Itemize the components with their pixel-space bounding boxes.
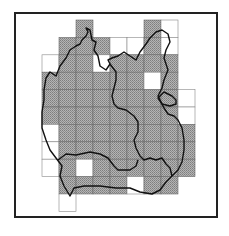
grid-cell-absent	[127, 177, 144, 194]
grid-cell-present	[144, 142, 161, 159]
grid-cell-present	[144, 124, 161, 141]
grid-cell-present	[93, 90, 110, 107]
grid-cell-present	[178, 142, 195, 159]
grid-cell-present	[110, 159, 127, 176]
grid-cell-present	[76, 107, 93, 124]
grid-cell-present	[93, 107, 110, 124]
grid-cell-present	[127, 124, 144, 141]
grid-cell-present	[76, 124, 93, 141]
grid-cell-present	[59, 37, 76, 54]
grid-cell-present	[127, 55, 144, 72]
grid-cell-present	[59, 124, 76, 141]
grid-cell-present	[76, 72, 93, 89]
grid-cell-present	[59, 72, 76, 89]
grid-cell-present	[93, 124, 110, 141]
grid-cell-absent	[42, 55, 59, 72]
grid-cell-absent	[178, 90, 195, 107]
grid-cell-absent	[127, 37, 144, 54]
grid-cell-present	[76, 142, 93, 159]
grid-cell-present	[93, 159, 110, 176]
grid-cell-present	[93, 142, 110, 159]
grid-cell-present	[76, 90, 93, 107]
grid-cell-present	[76, 55, 93, 72]
grid-cell-present	[76, 37, 93, 54]
grid-cell-present	[178, 159, 195, 176]
grid-cell-present	[178, 124, 195, 141]
grid-cell-absent	[178, 107, 195, 124]
grid-cell-present	[59, 90, 76, 107]
grid-cell-present	[127, 107, 144, 124]
grid-cell-present	[110, 124, 127, 141]
grid-cell-present	[110, 72, 127, 89]
distribution-map	[0, 0, 229, 236]
grid-cell-present	[93, 72, 110, 89]
grid-cell-absent	[59, 194, 76, 211]
grid-cell-present	[161, 124, 178, 141]
grid-cell-present	[110, 177, 127, 194]
grid-cell-absent	[161, 20, 178, 37]
grid-cell-present	[127, 90, 144, 107]
grid-cell-present	[127, 159, 144, 176]
grid-cell-present	[42, 107, 59, 124]
grid-cell-absent	[144, 72, 161, 89]
grid-cell-present	[161, 107, 178, 124]
grid-cell-absent	[76, 159, 93, 176]
grid-cell-present	[144, 159, 161, 176]
grid-cell-present	[127, 72, 144, 89]
grid-cell-present	[59, 107, 76, 124]
grid-cell-present	[144, 37, 161, 54]
grid-cell-absent	[42, 159, 59, 176]
grid-cell-present	[161, 142, 178, 159]
grid-cell-present	[144, 55, 161, 72]
grid-cell-present	[144, 107, 161, 124]
grid-cell-present	[110, 142, 127, 159]
grid-cell-absent	[42, 124, 59, 141]
grid-cell-absent	[93, 55, 110, 72]
